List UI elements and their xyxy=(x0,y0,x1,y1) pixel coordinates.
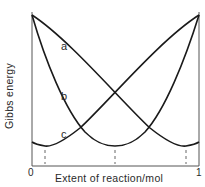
curve-c-label: c xyxy=(61,128,67,140)
x-tick-1: 1 xyxy=(196,167,202,178)
x-axis-label: Extent of reaction/mol xyxy=(55,172,163,184)
gibbs-energy-diagram xyxy=(0,0,205,187)
curve-a-label: a xyxy=(61,40,67,52)
curve-b-label: b xyxy=(61,90,67,102)
x-tick-0: 0 xyxy=(28,167,34,178)
y-axis-label: Gibbs energy xyxy=(3,63,15,129)
